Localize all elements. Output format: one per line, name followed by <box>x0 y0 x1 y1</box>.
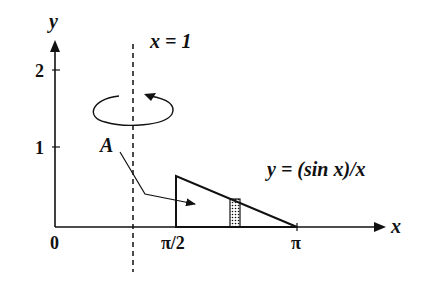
shaded-strip <box>230 199 240 227</box>
region-a-label: A <box>98 134 113 156</box>
y-axis <box>50 40 60 227</box>
x-axis-label: x <box>390 215 401 237</box>
x-tick-label-pi-over-2: π/2 <box>161 233 185 253</box>
y-axis-arrow-icon <box>50 40 60 52</box>
x-axis-arrow-icon <box>374 222 386 232</box>
origin-label: 0 <box>50 233 59 253</box>
y-tick-label-1: 1 <box>35 138 44 158</box>
curve-label: y = (sin x)/x <box>265 158 366 181</box>
x-tick-label-pi: π <box>291 233 301 253</box>
y-tick-label-2: 2 <box>35 61 44 81</box>
y-axis-label: y <box>47 10 58 33</box>
rotation-axis-label: x = 1 <box>149 30 191 52</box>
diagram-canvas: y 2 1 x 0 π/2 π x = 1 A y = (sin x)/x <box>0 0 427 282</box>
region-a-pointer-arrow <box>120 152 195 204</box>
